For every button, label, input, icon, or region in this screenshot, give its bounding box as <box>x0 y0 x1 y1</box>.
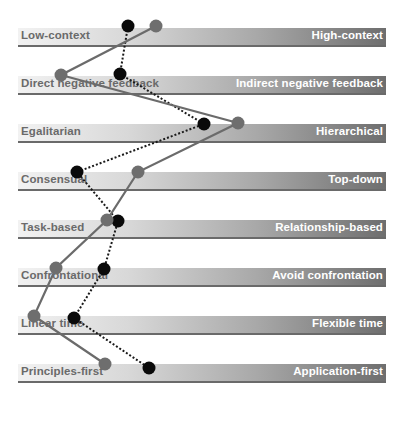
black-dotted-marker <box>122 20 135 33</box>
black-dotted-marker <box>112 215 125 228</box>
gray-solid-marker <box>101 214 114 227</box>
gray-solid-marker <box>132 166 145 179</box>
black-dotted-marker <box>114 68 127 81</box>
gray-solid-marker <box>55 69 68 82</box>
black-dotted-marker <box>98 263 111 276</box>
black-dotted-marker <box>198 118 211 131</box>
black-dotted-marker <box>143 362 156 375</box>
gray-solid-marker <box>50 262 63 275</box>
cultural-scales-chart: Low-context High-context Direct negative… <box>0 0 404 421</box>
black-dotted-marker <box>68 312 81 325</box>
gray-solid-marker <box>150 20 163 33</box>
gray-solid-marker <box>28 310 41 323</box>
black-dotted-line <box>74 26 204 368</box>
black-dotted-marker <box>71 166 84 179</box>
gray-solid-marker <box>232 117 245 130</box>
gray-solid-marker <box>99 358 112 371</box>
profile-lines <box>0 0 404 421</box>
